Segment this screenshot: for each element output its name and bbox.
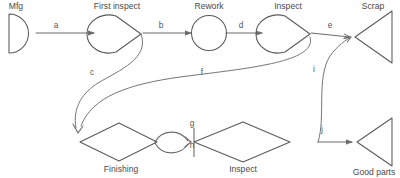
edge-c-label: c — [90, 67, 94, 77]
edge-a: a — [36, 20, 94, 33]
edge-b: b — [143, 20, 191, 33]
edge-f-path — [81, 37, 311, 126]
edge-e-path — [311, 33, 350, 37]
node-finishing[interactable]: Finishing — [80, 123, 157, 174]
rework-label: Rework — [194, 1, 224, 11]
flow-canvas: a b d e c f i — [0, 0, 400, 178]
edge-e-label: e — [328, 20, 333, 30]
edge-i: i — [313, 37, 351, 142]
edge-d-label: d — [239, 20, 244, 30]
edge-j-label: j — [320, 124, 323, 134]
edge-g: g — [155, 118, 195, 142]
first-inspect-shape — [87, 15, 141, 53]
first-inspect-label: First inspect — [94, 1, 141, 11]
edge-i-label: i — [313, 64, 315, 74]
good-parts-label: Good parts — [353, 167, 396, 177]
edge-h: h — [155, 140, 195, 153]
node-good-parts[interactable]: Good parts — [353, 118, 396, 177]
edge-e: e — [311, 20, 350, 37]
inspect-top-shape — [256, 15, 310, 53]
mfg-shape — [9, 14, 29, 53]
edge-f-label: f — [201, 67, 204, 77]
node-inspect-bottom[interactable]: Inspect — [194, 122, 290, 174]
edge-a-label: a — [54, 20, 59, 30]
inspect-bottom-label: Inspect — [229, 164, 257, 174]
edge-g-path — [155, 132, 188, 142]
inspect-top-label: Inspect — [274, 1, 302, 11]
node-scrap[interactable]: Scrap — [355, 1, 392, 63]
scrap-label: Scrap — [362, 1, 385, 11]
finishing-label: Finishing — [104, 164, 139, 174]
node-inspect-top[interactable]: Inspect — [256, 1, 310, 53]
edge-c-path — [75, 34, 142, 128]
edge-j: j — [318, 124, 352, 142]
rework-shape — [192, 16, 227, 51]
process-flow-diagram: a b d e c f i — [0, 0, 400, 178]
scrap-shape — [355, 11, 392, 63]
edge-c: c — [75, 34, 142, 128]
edge-b-label: b — [159, 20, 164, 30]
edge-f: f — [81, 37, 311, 126]
mfg-label: Mfg — [9, 1, 24, 11]
node-mfg[interactable]: Mfg — [9, 1, 29, 53]
node-rework[interactable]: Rework — [192, 1, 227, 50]
finishing-shape — [80, 123, 157, 161]
good-parts-shape — [357, 118, 392, 166]
edge-g-label: g — [190, 118, 195, 128]
edge-h-path — [155, 143, 188, 153]
node-first-inspect[interactable]: First inspect — [87, 1, 141, 53]
edge-i-path — [318, 37, 351, 142]
inspect-bottom-shape — [194, 122, 290, 162]
